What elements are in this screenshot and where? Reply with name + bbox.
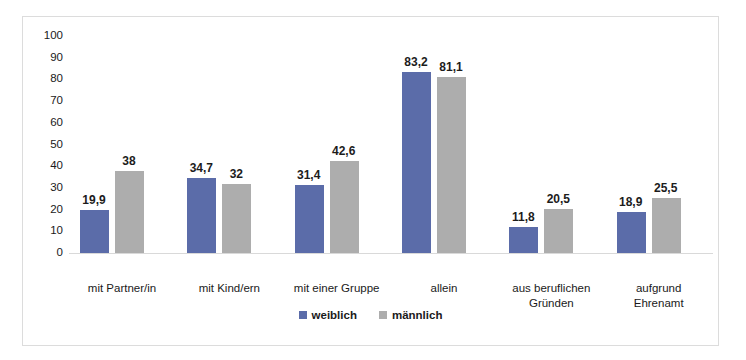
data-label-weiblich-4: 83,2 (396, 56, 436, 68)
plot-area: 19,938mit Partner/in34,732mit Kind/ern31… (69, 36, 713, 253)
y-axis-tick-0: 0 (29, 247, 63, 259)
bar-männlich-3[interactable] (330, 161, 359, 253)
data-label-männlich-5: 20,5 (538, 193, 578, 205)
bar-weiblich-4[interactable] (402, 72, 431, 253)
legend-swatch-icon (299, 311, 307, 319)
data-label-weiblich-6: 18,9 (611, 196, 651, 208)
chart-frame: 1009080706050403020100 19,938mit Partner… (22, 16, 719, 346)
category-label-line: aufgrund (594, 281, 724, 296)
data-label-weiblich-5: 11,8 (503, 211, 543, 223)
bar-männlich-2[interactable] (222, 184, 251, 253)
y-axis-tick-10: 10 (29, 226, 63, 238)
bar-weiblich-5[interactable] (509, 227, 538, 253)
legend-item-weiblich[interactable]: weiblich (299, 309, 357, 321)
y-axis-tick-20: 20 (29, 204, 63, 216)
data-label-männlich-1: 38 (109, 155, 149, 167)
bar-group-4: 83,281,1allein (391, 36, 498, 253)
bar-group-3: 31,442,6mit einer Gruppe (284, 36, 391, 253)
legend-item-männlich[interactable]: männlich (379, 309, 442, 321)
data-label-männlich-3: 42,6 (324, 145, 364, 157)
y-axis-tick-60: 60 (29, 117, 63, 129)
data-label-weiblich-3: 31,4 (289, 169, 329, 181)
y-axis-tick-70: 70 (29, 95, 63, 107)
x-axis-baseline (69, 253, 713, 254)
bar-weiblich-1[interactable] (80, 210, 109, 253)
bar-group-6: 18,925,5aufgrundEhrenamt (606, 36, 713, 253)
bar-weiblich-3[interactable] (295, 185, 324, 253)
data-label-männlich-2: 32 (216, 168, 256, 180)
y-axis-tick-90: 90 (29, 52, 63, 64)
data-label-weiblich-1: 19,9 (74, 194, 114, 206)
bar-group-2: 34,732mit Kind/ern (176, 36, 283, 253)
legend-label: weiblich (312, 309, 357, 321)
y-axis: 1009080706050403020100 (23, 36, 63, 253)
y-axis-tick-50: 50 (29, 139, 63, 151)
data-label-männlich-6: 25,5 (646, 182, 686, 194)
data-label-männlich-4: 81,1 (431, 61, 471, 73)
category-label-6: aufgrundEhrenamt (594, 281, 724, 311)
y-axis-tick-30: 30 (29, 182, 63, 194)
y-axis-tick-80: 80 (29, 74, 63, 86)
bar-weiblich-6[interactable] (617, 212, 646, 253)
bar-männlich-1[interactable] (115, 171, 144, 253)
y-axis-tick-100: 100 (29, 30, 63, 42)
bar-group-1: 19,938mit Partner/in (69, 36, 176, 253)
bar-weiblich-2[interactable] (187, 178, 216, 253)
bar-männlich-4[interactable] (437, 77, 466, 253)
legend-label: männlich (392, 309, 442, 321)
y-axis-tick-40: 40 (29, 160, 63, 172)
bar-männlich-5[interactable] (544, 209, 573, 253)
chart-legend: weiblichmännlich (23, 309, 718, 321)
bar-männlich-6[interactable] (652, 198, 681, 253)
bar-group-5: 11,820,5aus beruflichenGründen (498, 36, 605, 253)
data-label-weiblich-2: 34,7 (181, 162, 221, 174)
legend-swatch-icon (379, 311, 387, 319)
